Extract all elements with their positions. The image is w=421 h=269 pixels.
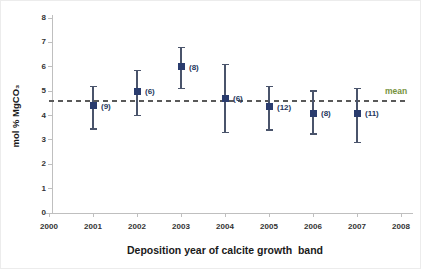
y-tick-label: 4	[26, 111, 46, 121]
error-bar-cap-bottom	[134, 115, 141, 117]
error-bar-cap-top	[178, 47, 185, 49]
point-count-label: (12)	[277, 103, 291, 112]
y-axis-tick	[48, 115, 53, 116]
error-bar-cap-top	[354, 88, 361, 90]
error-bar-cap-top	[90, 86, 97, 88]
x-tick-label: 2007	[341, 222, 373, 232]
x-axis-tick	[49, 213, 50, 217]
y-axis-tick	[48, 164, 53, 165]
x-tick-label: 2005	[253, 222, 285, 232]
data-point-marker	[310, 110, 317, 117]
y-tick-label: 6	[26, 62, 46, 72]
x-axis-tick	[137, 213, 138, 217]
x-axis-line	[45, 213, 413, 214]
y-axis-tick	[48, 139, 53, 140]
error-bar-cap-bottom	[266, 129, 273, 131]
error-bar-cap-bottom	[178, 88, 185, 90]
point-count-label: (8)	[189, 63, 199, 72]
x-axis-tick	[181, 213, 182, 217]
x-tick-label: 2000	[33, 222, 65, 232]
x-tick-label: 2004	[209, 222, 241, 232]
error-bar-cap-bottom	[90, 128, 97, 130]
data-point-marker	[90, 102, 97, 109]
y-axis-title: mol % MgCO₃	[10, 36, 24, 196]
point-count-label: (9)	[101, 102, 111, 111]
data-point-marker	[222, 95, 229, 102]
point-count-label: (6)	[233, 94, 243, 103]
error-bar-cap-top	[266, 86, 273, 88]
data-point-marker	[354, 110, 361, 117]
data-point-marker	[178, 63, 185, 70]
y-axis-tick	[48, 18, 53, 19]
error-bar-cap-bottom	[310, 133, 317, 135]
error-bar-cap-top	[310, 90, 317, 92]
error-bar-cap-top	[134, 70, 141, 72]
chart-figure: mol % MgCO₃ 0123456782000200120022003200…	[0, 0, 421, 269]
y-tick-label: 0	[26, 208, 46, 218]
x-axis-tick	[313, 213, 314, 217]
x-axis-tick	[225, 213, 226, 217]
point-count-label: (11)	[365, 109, 379, 118]
x-axis-tick	[357, 213, 358, 217]
y-tick-label: 7	[26, 37, 46, 47]
x-tick-label: 2003	[165, 222, 197, 232]
error-bar-cap-bottom	[222, 132, 229, 134]
point-count-label: (6)	[145, 87, 155, 96]
y-tick-label: 2	[26, 159, 46, 169]
error-bar-cap-top	[222, 64, 229, 66]
x-tick-label: 2002	[121, 222, 153, 232]
y-tick-label: 8	[26, 13, 46, 23]
x-tick-label: 2008	[385, 222, 417, 232]
x-tick-label: 2006	[297, 222, 329, 232]
y-axis-tick	[48, 91, 53, 92]
mean-line-label: mean	[385, 86, 407, 96]
x-axis-tick	[269, 213, 270, 217]
y-axis-tick	[48, 42, 53, 43]
point-count-label: (8)	[321, 109, 331, 118]
data-point-marker	[134, 88, 141, 95]
error-bar-cap-bottom	[354, 142, 361, 144]
x-axis-tick	[401, 213, 402, 217]
x-tick-label: 2001	[77, 222, 109, 232]
data-point-marker	[266, 103, 273, 110]
y-tick-label: 1	[26, 184, 46, 194]
x-axis-title: Deposition year of calcite growth band	[49, 244, 401, 256]
x-axis-tick	[93, 213, 94, 217]
y-axis-tick	[48, 188, 53, 189]
y-tick-label: 3	[26, 135, 46, 145]
y-axis-tick	[48, 66, 53, 67]
y-tick-label: 5	[26, 86, 46, 96]
